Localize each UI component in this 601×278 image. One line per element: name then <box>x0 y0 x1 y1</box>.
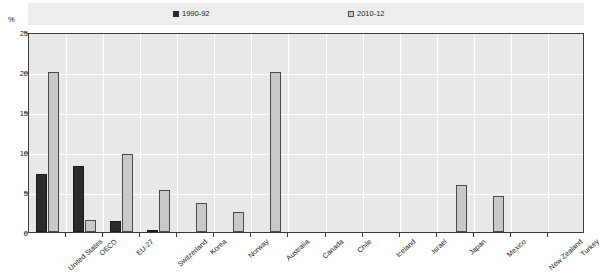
bar-group <box>326 34 363 232</box>
bar-series-layer <box>29 34 583 232</box>
bar <box>122 154 133 232</box>
bar <box>493 196 504 232</box>
bar-group <box>29 34 66 232</box>
bar-group <box>177 34 214 232</box>
bar-group <box>288 34 325 232</box>
bar-group <box>251 34 288 232</box>
bar <box>36 174 47 232</box>
x-tick-label: Norway <box>246 237 270 260</box>
bar-group <box>400 34 437 232</box>
bar <box>110 221 121 232</box>
bar <box>456 185 467 232</box>
bar <box>85 220 96 232</box>
bar-group <box>548 34 585 232</box>
x-tick-label: United States <box>66 237 104 273</box>
legend-label-2010-12: 2010-12 <box>357 9 385 18</box>
plot-area <box>28 33 584 233</box>
bar-group <box>66 34 103 232</box>
bar <box>147 230 158 232</box>
x-tick-label: Turkey <box>579 237 601 258</box>
dark-square-icon <box>173 11 179 17</box>
x-axis-labels: United StatesOECDEU-27SwitzerlandKoreaNo… <box>0 233 597 278</box>
x-tick-label: Canada <box>320 237 345 261</box>
legend-item-1990-92: 1990-92 <box>173 9 210 18</box>
bar-group <box>214 34 251 232</box>
y-axis: 0510152025 <box>0 33 28 233</box>
bar-group <box>511 34 548 232</box>
x-tick-label: Israel <box>430 237 449 255</box>
y-axis-unit-label: % <box>8 15 15 24</box>
legend-item-2010-12: 2010-12 <box>348 9 385 18</box>
x-tick-label: Japan <box>467 237 488 257</box>
bar <box>73 166 84 232</box>
bar <box>159 190 170 232</box>
bar <box>233 212 244 232</box>
bar-group <box>474 34 511 232</box>
light-square-icon <box>348 11 354 17</box>
x-tick-label: EU-27 <box>134 237 155 257</box>
bar <box>48 72 59 232</box>
x-tick-label: New Zealand <box>547 237 585 272</box>
bar-group <box>363 34 400 232</box>
x-tick-label: Mexico <box>505 237 528 259</box>
x-tick-label: Korea <box>208 237 228 257</box>
legend-label-1990-92: 1990-92 <box>182 9 210 18</box>
bar-group <box>103 34 140 232</box>
bar-group <box>140 34 177 232</box>
x-tick-label: Chile <box>355 237 373 255</box>
x-tick-label: Iceland <box>394 237 417 259</box>
chart-legend: 1990-92 2010-12 <box>28 3 584 25</box>
x-tick-label: Australia <box>284 237 311 262</box>
bar-group <box>437 34 474 232</box>
bar <box>196 203 207 232</box>
bar <box>270 72 281 232</box>
x-tick-label: Switzerland <box>175 237 209 269</box>
